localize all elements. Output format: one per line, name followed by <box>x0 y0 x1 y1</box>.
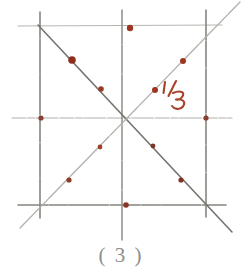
figure-caption: ( 3 ) <box>0 243 242 268</box>
line-top-edge <box>18 25 222 26</box>
dot-descending-mid <box>98 86 104 92</box>
dot-top-center <box>127 25 133 31</box>
geometry-diagram <box>0 0 242 279</box>
figure-container: ( 3 ) <box>0 0 242 279</box>
dot-ascending-upper <box>180 58 186 64</box>
dot-descending-upper <box>68 56 76 64</box>
dot-left-middle <box>38 115 43 120</box>
line-ascending-diagonal <box>20 2 240 228</box>
dot-ascending-bottom <box>66 177 71 182</box>
dot-descending-bottom <box>178 177 183 182</box>
line-descending-diagonal <box>38 25 232 232</box>
dot-ascending-lower <box>98 145 103 150</box>
dot-ascending-label-point <box>152 87 158 93</box>
dot-bottom-center <box>123 202 129 208</box>
dot-descending-lower <box>151 144 156 149</box>
dot-right-middle <box>203 115 208 120</box>
